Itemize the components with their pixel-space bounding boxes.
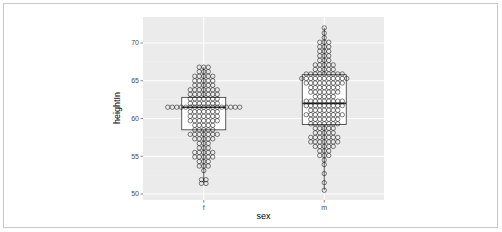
x-tick-label: m xyxy=(321,204,327,211)
y-tick-label: 60 xyxy=(131,115,139,122)
y-tick-label: 50 xyxy=(131,190,139,197)
y-tick-label: 65 xyxy=(131,77,139,84)
x-axis: fm xyxy=(203,200,328,211)
x-tick-label: f xyxy=(203,204,205,211)
y-axis-title: heightIn xyxy=(112,92,122,124)
x-axis-title: sex xyxy=(256,211,271,221)
dotplot-chart: 5055606570 fm sex heightIn xyxy=(0,0,502,232)
plot-panel xyxy=(143,17,384,200)
y-tick-label: 70 xyxy=(131,39,139,46)
y-axis: 5055606570 xyxy=(131,39,143,197)
y-tick-label: 55 xyxy=(131,153,139,160)
